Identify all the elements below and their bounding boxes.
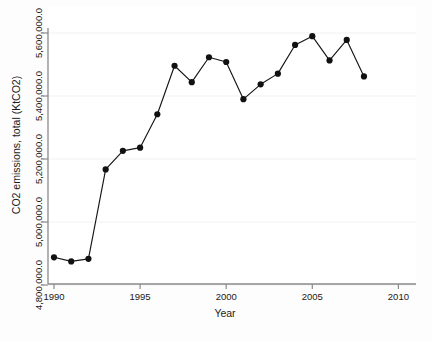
data-point-1992 <box>85 256 91 262</box>
y-tick-label-3: 5,400,000.0 <box>33 71 44 121</box>
data-point-2001 <box>240 96 246 102</box>
y-tick-label-2: 5,200,000.0 <box>33 134 44 184</box>
data-point-1997 <box>171 63 177 69</box>
y-axis-title: CO2 emissions, total (KtCO2) <box>10 76 22 214</box>
data-point-1994 <box>120 148 126 154</box>
data-point-1996 <box>154 111 160 117</box>
x-axis-title: Year <box>214 307 236 319</box>
data-point-2002 <box>258 81 264 87</box>
y-tick-label-0: 4,800,000.0 <box>33 260 44 310</box>
data-point-2000 <box>223 59 229 65</box>
x-tick-label-4: 2010 <box>388 291 409 302</box>
data-point-2004 <box>292 42 298 48</box>
data-point-2006 <box>326 57 332 63</box>
data-point-2008 <box>361 73 367 79</box>
x-tick-label-2: 2000 <box>216 291 237 302</box>
data-point-1998 <box>189 79 195 85</box>
y-tick-labels: 4,800,000.05,000,000.05,200,000.05,400,0… <box>33 8 44 310</box>
data-point-1999 <box>206 54 212 60</box>
x-tick-label-0: 1990 <box>43 291 64 302</box>
data-point-1995 <box>137 145 143 151</box>
co2-emissions-line-chart: 19901995200020052010 4,800,000.05,000,00… <box>0 0 432 341</box>
y-tick-label-1: 5,000,000.0 <box>33 197 44 247</box>
data-point-2003 <box>275 71 281 77</box>
x-tick-label-3: 2005 <box>302 291 323 302</box>
data-point-1990 <box>51 254 57 260</box>
chart-figure: 19901995200020052010 4,800,000.05,000,00… <box>0 0 432 341</box>
data-point-1991 <box>68 258 74 264</box>
data-point-2007 <box>344 37 350 43</box>
plot-area-background <box>48 6 416 284</box>
data-point-1993 <box>103 166 109 172</box>
y-tick-label-4: 5,600,000.0 <box>33 8 44 58</box>
x-tick-label-1: 1995 <box>130 291 151 302</box>
data-point-2005 <box>309 33 315 39</box>
